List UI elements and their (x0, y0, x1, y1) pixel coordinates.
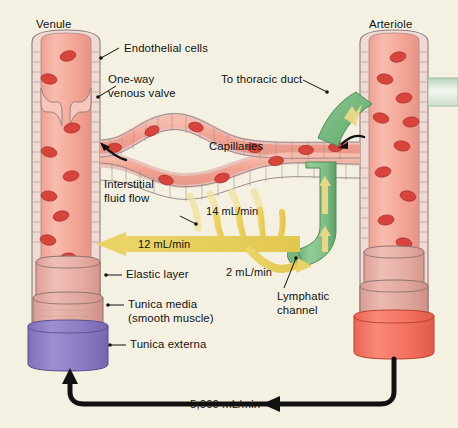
label-venule: Venule (36, 18, 71, 31)
venule-vessel (28, 30, 108, 371)
flow-value-lymphatic: 2 mL/min (226, 266, 272, 279)
venule-wall-layers (28, 256, 108, 371)
label-to-thoracic-duct: To thoracic duct (221, 73, 302, 86)
label-tunica-externa: Tunica externa (130, 338, 206, 351)
label-arteriole: Arteriole (369, 18, 412, 31)
label-lymphatic-line2: channel (277, 304, 318, 317)
arteriole-vessel (354, 30, 458, 359)
label-lymphatic-line1: Lymphatic (277, 290, 329, 303)
label-elastic-layer: Elastic layer (126, 268, 189, 281)
label-endothelial-cells: Endothelial cells (124, 42, 208, 55)
label-one-way-valve-line1: One-way (108, 73, 154, 86)
side-branch-vessel (428, 78, 458, 106)
label-one-way-valve-line2: venous valve (108, 87, 176, 100)
label-tunica-media-line2: (smooth muscle) (128, 312, 214, 325)
label-interstitial-line1: Interstitial (104, 178, 154, 191)
microcirculation-diagram: Venule Arteriole Endothelial cells One-w… (0, 0, 458, 428)
flow-value-filtration: 14 mL/min (206, 205, 258, 218)
flow-value-cardiac-output: 5,000 mL/min (190, 398, 260, 411)
flow-value-reabsorption: 12 mL/min (138, 238, 190, 251)
arteriole-wall-layers (354, 246, 434, 359)
label-interstitial-line2: fluid flow (104, 192, 149, 205)
label-capillaries: Capillaries (209, 140, 263, 153)
label-tunica-media-line1: Tunica media (128, 298, 197, 311)
